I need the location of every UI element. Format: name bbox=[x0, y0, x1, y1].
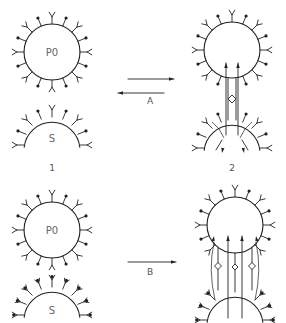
ligand-head bbox=[84, 214, 87, 217]
receptor-arm bbox=[87, 49, 92, 52]
bound-ligand bbox=[268, 304, 271, 307]
ligand-head bbox=[244, 112, 247, 115]
receptor-arm bbox=[267, 50, 272, 53]
bound-ligand bbox=[89, 313, 92, 316]
ligand-head bbox=[267, 209, 270, 212]
ligand-head bbox=[64, 84, 67, 87]
cell-membrane-arc bbox=[204, 125, 260, 150]
receptor-stem bbox=[27, 290, 32, 295]
ligand-head bbox=[36, 262, 39, 265]
receptor-arm bbox=[52, 105, 55, 110]
receptor-arm bbox=[52, 12, 55, 17]
receptor-arm bbox=[257, 118, 258, 123]
bound-ligand bbox=[36, 279, 39, 282]
receptor-arm bbox=[22, 77, 27, 78]
bridge-complex-icon bbox=[215, 263, 222, 270]
receptor-stem bbox=[72, 205, 77, 210]
receptor-arm bbox=[77, 26, 82, 27]
receptor-stem bbox=[207, 70, 212, 75]
receptor-arm bbox=[202, 122, 207, 123]
receptor-arm bbox=[77, 77, 82, 78]
ligand-head bbox=[199, 209, 202, 212]
ligand-head bbox=[64, 262, 67, 265]
panel-label-1: 1 bbox=[49, 163, 55, 173]
receptor-arm bbox=[87, 227, 92, 230]
cell-label-s-top: S bbox=[49, 133, 55, 144]
receptor-arm bbox=[22, 255, 27, 256]
cell-membrane-arc bbox=[207, 297, 263, 322]
receptor-arm bbox=[267, 47, 272, 50]
ligand-head bbox=[16, 242, 19, 245]
ligand-head bbox=[16, 214, 19, 217]
ligand-head bbox=[216, 14, 219, 17]
receptor-stem bbox=[39, 283, 42, 289]
ligand-head bbox=[264, 132, 267, 135]
signal-arrow-curved bbox=[211, 242, 215, 300]
receptor-arm bbox=[267, 145, 272, 148]
ligand-head bbox=[64, 194, 67, 197]
receptor-arm bbox=[12, 142, 17, 145]
receptor-stem bbox=[207, 123, 212, 128]
bound-ligand bbox=[195, 318, 198, 321]
ligand-head bbox=[247, 189, 250, 192]
bound-ligand bbox=[206, 291, 209, 294]
receptor-stem bbox=[72, 72, 77, 77]
receptor-arm bbox=[26, 115, 27, 120]
ligand-head bbox=[16, 36, 19, 39]
bound-ligand bbox=[65, 279, 68, 282]
receptor-stem bbox=[252, 123, 257, 128]
receptor-arm bbox=[260, 250, 265, 251]
receptor-arm bbox=[12, 227, 17, 230]
receptor-arm bbox=[202, 75, 207, 76]
ligand-head bbox=[36, 109, 39, 112]
ligand-head bbox=[84, 64, 87, 67]
ligand-head bbox=[36, 16, 39, 19]
signal-arrow-head bbox=[236, 63, 240, 68]
receptor-arm bbox=[49, 105, 52, 110]
receptor-arm bbox=[229, 10, 232, 15]
ligand-head bbox=[216, 112, 219, 115]
ligand-head bbox=[199, 237, 202, 240]
bound-ligand bbox=[23, 286, 26, 289]
receptor-arm bbox=[26, 200, 27, 205]
signal-arrow-curved bbox=[255, 242, 259, 300]
internal-stroke bbox=[216, 140, 222, 150]
receptor-arm bbox=[77, 77, 78, 82]
receptor-arm bbox=[12, 52, 17, 55]
receptor-arm bbox=[206, 75, 207, 80]
diagram-stage: P0 S 1 2 A P0 S B bbox=[0, 0, 286, 323]
ligand-head bbox=[64, 16, 67, 19]
receptor-arm bbox=[257, 75, 258, 80]
signal-arrow-head bbox=[224, 63, 228, 68]
receptor-stem bbox=[207, 25, 212, 30]
internal-arrow-left-head bbox=[221, 148, 224, 153]
receptor-arm bbox=[192, 145, 197, 148]
receptor-stem bbox=[27, 120, 32, 125]
receptor-arm bbox=[270, 225, 275, 228]
bound-ligand bbox=[199, 304, 202, 307]
receptor-arm bbox=[257, 20, 258, 25]
ligand-head bbox=[244, 14, 247, 17]
signal-arrow-curved-head bbox=[255, 236, 258, 241]
receptor-arm bbox=[205, 250, 210, 251]
receptor-arm bbox=[260, 195, 261, 200]
ligand-head bbox=[36, 194, 39, 197]
cell-label-p0-bottom: P0 bbox=[46, 225, 58, 236]
internal-arrow-right bbox=[240, 122, 252, 138]
receptor-arm bbox=[77, 115, 78, 120]
arrow-label-a: A bbox=[147, 96, 153, 106]
bound-ligand bbox=[12, 313, 15, 316]
bridge-complex-icon bbox=[228, 95, 236, 103]
receptor-arm bbox=[195, 225, 200, 228]
ligand-head bbox=[16, 129, 19, 132]
receptor-stem bbox=[72, 250, 77, 255]
signal-arrow-head bbox=[226, 236, 230, 241]
receptor-arm bbox=[87, 230, 92, 233]
receptor-arm bbox=[260, 199, 265, 200]
ligand-head bbox=[216, 82, 219, 85]
receptor-arm bbox=[232, 10, 235, 15]
receptor-arm bbox=[260, 250, 261, 255]
receptor-arm bbox=[205, 199, 210, 200]
receptor-arm bbox=[22, 26, 27, 27]
ligand-head bbox=[84, 242, 87, 245]
